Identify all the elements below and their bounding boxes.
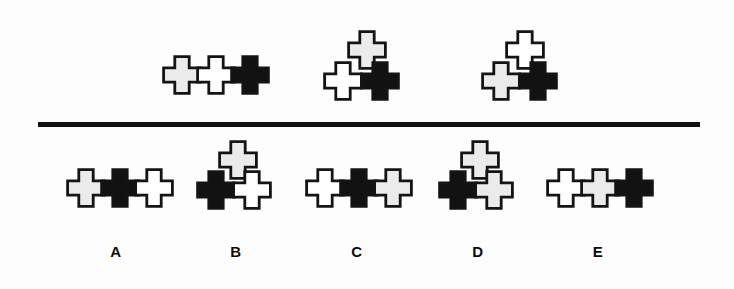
- option-label-e[interactable]: E: [578, 243, 618, 260]
- option-label-b[interactable]: B: [216, 243, 256, 260]
- option-label-d[interactable]: D: [458, 243, 498, 260]
- option-label-c[interactable]: C: [337, 243, 377, 260]
- option-label-a[interactable]: A: [96, 243, 136, 260]
- option-labels-row: ABCDE: [0, 0, 734, 289]
- puzzle-canvas: ABCDE: [0, 0, 734, 289]
